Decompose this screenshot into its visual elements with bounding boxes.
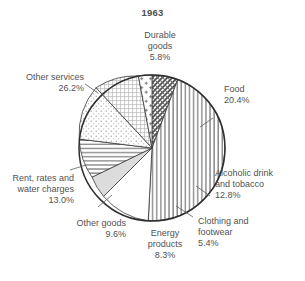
slice-label-alcohol-line2: and tobacco <box>215 179 305 190</box>
slice-label-rent-line1: Rent, rates and <box>0 173 74 184</box>
slice-label-clothing-and-footwear: Clothing and footwear 5.4% <box>198 216 283 250</box>
pie-chart-figure: 1963 <box>0 0 305 281</box>
slice-value-other-services: 26.2% <box>8 83 84 94</box>
slice-label-food: Food 20.4% <box>224 84 284 106</box>
slice-label-other-services: Other services 26.2% <box>8 72 84 94</box>
slice-label-clothing-line1: Clothing and <box>198 216 283 227</box>
slice-value-energy-products: 8.3% <box>134 250 196 261</box>
slice-label-alcohol-line1: Alcoholic drink <box>215 168 305 179</box>
slice-value-alcoholic-drink-and-tobacco: 12.8% <box>215 190 305 201</box>
slice-label-energy-line2: products <box>134 239 196 250</box>
slice-label-rent-rates-and-water-charges: Rent, rates and water charges 13.0% <box>0 173 74 207</box>
slice-label-durable-goods-line2: goods <box>126 41 194 52</box>
slice-value-rent-rates-and-water-charges: 13.0% <box>0 195 74 206</box>
slice-label-other-services-line1: Other services <box>8 72 84 83</box>
slice-label-durable-goods-line1: Durable <box>126 30 194 41</box>
slice-label-other-goods-line1: Other goods <box>48 218 126 229</box>
slice-label-clothing-line2: footwear <box>198 227 283 238</box>
slice-label-energy-products: Energy products 8.3% <box>134 228 196 262</box>
slice-label-rent-line2: water charges <box>0 184 74 195</box>
slice-label-energy-line1: Energy <box>134 228 196 239</box>
slice-label-alcoholic-drink-and-tobacco: Alcoholic drink and tobacco 12.8% <box>215 168 305 202</box>
slice-label-food-line1: Food <box>224 84 284 95</box>
slice-value-clothing-and-footwear: 5.4% <box>198 238 283 249</box>
slice-value-durable-goods: 5.8% <box>126 52 194 63</box>
slice-value-other-goods: 9.6% <box>48 229 126 240</box>
slice-value-food: 20.4% <box>224 95 284 106</box>
slice-label-other-goods: Other goods 9.6% <box>48 218 126 240</box>
slice-label-durable-goods: Durable goods 5.8% <box>126 30 194 64</box>
